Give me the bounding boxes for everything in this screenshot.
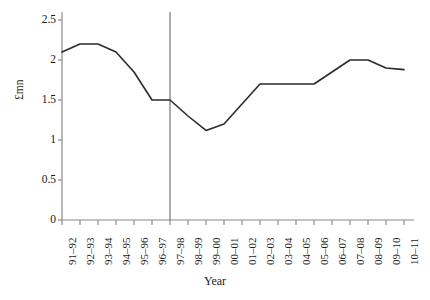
x-tick-label: 94–95 <box>121 238 132 266</box>
x-tick-label: 01–02 <box>247 238 258 266</box>
data-line <box>62 44 404 130</box>
y-tick-label: 2.5 <box>20 14 56 26</box>
tick-marks <box>58 20 404 225</box>
x-tick-label: 92–93 <box>85 238 96 266</box>
x-tick-label: 95–96 <box>139 238 150 266</box>
axes <box>62 12 414 220</box>
data-series-layer <box>62 44 404 130</box>
x-tick-label: 06–07 <box>337 238 348 266</box>
y-tick-label: 1 <box>20 134 56 146</box>
x-axis-title: Year <box>0 275 430 287</box>
y-tick-label: 0 <box>20 214 56 226</box>
x-tick-label: 04–05 <box>301 238 312 266</box>
x-tick-label: 03–04 <box>283 238 294 266</box>
x-tick-label: 08–09 <box>373 238 384 266</box>
x-tick-label: 02–03 <box>265 238 276 266</box>
x-tick-label: 00–01 <box>229 238 240 266</box>
x-tick-label: 97–98 <box>175 238 186 266</box>
y-tick-label: 0.5 <box>20 174 56 186</box>
y-tick-label: 2 <box>20 54 56 66</box>
y-axis-title: £mn <box>14 80 26 100</box>
x-tick-label: 05–06 <box>319 238 330 266</box>
x-tick-label: 10–11 <box>409 238 420 265</box>
x-tick-label: 07–08 <box>355 238 366 266</box>
x-tick-label: 91–92 <box>67 238 78 266</box>
x-tick-label: 93–94 <box>103 238 114 266</box>
line-chart-figure: 00.511.522.5 91–9292–9393–9494–9595–9696… <box>0 0 430 300</box>
x-tick-label: 96–97 <box>157 238 168 266</box>
x-tick-label: 99–00 <box>211 238 222 266</box>
x-tick-label: 09–10 <box>391 238 402 266</box>
x-tick-label: 98–99 <box>193 238 204 266</box>
